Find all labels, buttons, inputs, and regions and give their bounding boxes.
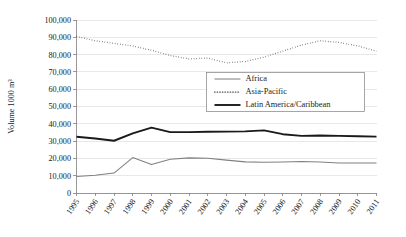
- y-tick-label: 0: [67, 189, 71, 198]
- x-tick-label: 2006: [271, 197, 288, 216]
- y-tick-label: 60,000: [48, 85, 71, 94]
- x-tick-label: 1997: [102, 197, 119, 216]
- y-tick-label: 20,000: [48, 154, 71, 163]
- y-tick-label: 50,000: [48, 102, 71, 111]
- y-axis-tick-labels: 010,00020,00030,00040,00050,00060,00070,…: [44, 16, 71, 198]
- x-tick-label: 2001: [177, 197, 194, 216]
- series-line-asia-pacific: [77, 36, 377, 62]
- legend-label: Asia-Pacific: [246, 87, 288, 96]
- x-tick-label: 2004: [233, 197, 250, 216]
- x-tick-label: 2003: [215, 197, 232, 216]
- x-tick-label: 1999: [140, 197, 157, 216]
- x-tick-label: 1995: [65, 197, 82, 216]
- x-tick-label: 1996: [83, 197, 100, 216]
- line-chart: 010,00020,00030,00040,00050,00060,00070,…: [0, 0, 406, 237]
- y-axis-ticks: [73, 20, 76, 193]
- x-tick-label: 1998: [121, 197, 138, 216]
- y-tick-label: 90,000: [48, 33, 71, 42]
- x-tick-label: 2009: [327, 197, 344, 216]
- x-tick-label: 2000: [158, 197, 175, 216]
- x-tick-label: 2010: [346, 197, 363, 216]
- legend-label: Africa: [246, 74, 268, 83]
- x-tick-label: 2008: [308, 197, 325, 216]
- x-tick-label: 2011: [365, 197, 382, 215]
- x-axis-ticks: [77, 193, 377, 196]
- x-tick-label: 2007: [290, 197, 307, 216]
- chart-legend: AfricaAsia-PacificLatin America/Caribbea…: [207, 73, 365, 112]
- chart-container: 010,00020,00030,00040,00050,00060,00070,…: [0, 0, 406, 237]
- series-line-latin-america-caribbean: [77, 128, 377, 141]
- y-tick-label: 100,000: [44, 16, 71, 25]
- y-tick-label: 80,000: [48, 51, 71, 60]
- y-axis-title: Volume 1000 m³: [7, 79, 16, 134]
- y-tick-label: 40,000: [48, 120, 71, 129]
- y-tick-label: 10,000: [48, 172, 71, 181]
- series-line-africa: [77, 158, 377, 177]
- x-axis-tick-labels: 1995199619971998199920002001200220032004…: [65, 197, 382, 216]
- y-tick-label: 70,000: [48, 68, 71, 77]
- y-tick-label: 30,000: [48, 137, 71, 146]
- x-tick-label: 2005: [252, 197, 269, 216]
- legend-label: Latin America/Caribbean: [246, 100, 332, 109]
- x-tick-label: 2002: [196, 197, 213, 216]
